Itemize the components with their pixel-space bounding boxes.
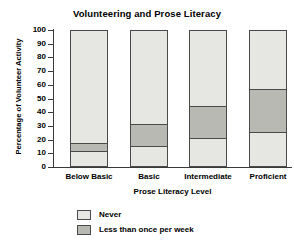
- y-tick-mark: [48, 153, 53, 154]
- legend-label: Less than once per week: [99, 225, 194, 234]
- y-tick-label: 40: [37, 107, 46, 116]
- y-tick-label: 50: [37, 94, 46, 103]
- y-tick-label: 70: [37, 66, 46, 75]
- y-tick-label: 90: [37, 39, 46, 48]
- y-tick-mark: [48, 167, 53, 168]
- y-tick-mark: [48, 85, 53, 86]
- y-tick-label: 30: [37, 121, 46, 130]
- y-tick-mark: [48, 112, 53, 113]
- bar-segment-less-than-once-per-week: [250, 89, 286, 133]
- bar-segment-less-than-once-per-week: [190, 106, 226, 139]
- legend-label: Never: [99, 210, 121, 219]
- y-tick-mark: [48, 126, 53, 127]
- bar-basic[interactable]: [130, 30, 168, 167]
- bar-proficient[interactable]: [249, 30, 287, 167]
- x-tick-label: Proficient: [227, 172, 294, 181]
- y-tick-label: 20: [37, 135, 46, 144]
- y-tick-label: 10: [37, 148, 46, 157]
- bar-intermediate[interactable]: [189, 30, 227, 167]
- y-tick-label: 80: [37, 52, 46, 61]
- plot-area: 0102030405060708090100: [53, 30, 292, 167]
- y-axis-title: Percentage of Volunteer Activity: [14, 22, 23, 172]
- chart-title: Volunteering and Prose Literacy: [0, 8, 294, 19]
- y-tick-mark: [48, 99, 53, 100]
- bar-segment-less-than-once-per-week: [71, 143, 107, 153]
- legend-swatch-icon: [77, 210, 91, 220]
- chart-legend: NeverLess than once per week: [77, 207, 277, 237]
- y-tick-label: 100: [33, 25, 46, 34]
- y-tick-mark: [48, 44, 53, 45]
- y-tick-mark: [48, 71, 53, 72]
- legend-swatch-icon: [77, 225, 91, 235]
- y-tick-label: 60: [37, 80, 46, 89]
- bar-below-basic[interactable]: [70, 30, 108, 167]
- y-tick-label: 0: [42, 162, 46, 171]
- x-axis-title: Prose Literacy Level: [53, 187, 292, 196]
- legend-item: Less than once per week: [77, 222, 277, 237]
- y-tick-mark: [48, 57, 53, 58]
- legend-item: Never: [77, 207, 277, 222]
- x-axis-line: [53, 167, 292, 168]
- y-tick-mark: [48, 30, 53, 31]
- bar-segment-less-than-once-per-week: [131, 124, 167, 147]
- y-tick-mark: [48, 140, 53, 141]
- chart-figure: Volunteering and Prose Literacy Percenta…: [0, 0, 294, 242]
